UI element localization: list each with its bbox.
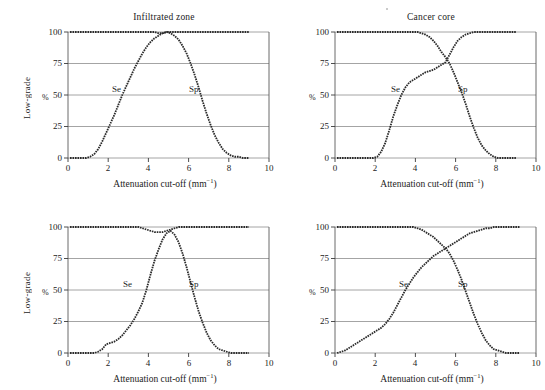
x-tick-4: 4 (140, 359, 156, 368)
x-axis-label-text: Attenuation cut-off (mm (113, 374, 206, 384)
series-label-se: Se (112, 84, 121, 94)
x-tick-4: 4 (407, 359, 423, 368)
x-tick-6: 6 (181, 359, 197, 368)
y-tick-25: 25 (40, 317, 62, 326)
x-tick-2: 2 (367, 164, 383, 173)
x-axis-label: Attenuation cut-off (mm−1) (317, 372, 545, 384)
y-tick-25: 25 (40, 122, 62, 131)
plot-area (68, 32, 269, 158)
x-tick-10: 10 (528, 164, 544, 173)
x-tick-6: 6 (181, 164, 197, 173)
x-tick-6: 6 (448, 164, 464, 173)
y-tick-100: 100 (40, 28, 62, 37)
x-tick-0: 0 (327, 359, 343, 368)
y-ticks (331, 32, 335, 158)
y-tick-0: 0 (40, 154, 62, 163)
panel-bottom-left: Low-grade % (0, 195, 267, 390)
x-axis-label-text: Attenuation cut-off (mm (113, 179, 206, 189)
panel-cancer-core: Cancer core % (267, 0, 534, 195)
x-tick-10: 10 (528, 359, 544, 368)
x-axis-label-tail: ) (213, 179, 216, 189)
plot-area (335, 227, 536, 353)
y-tick-50: 50 (40, 91, 62, 100)
series-label-sp: Sp (458, 84, 468, 94)
y-tick-100: 100 (40, 223, 62, 232)
x-tick-8: 8 (488, 164, 504, 173)
series-label-se: Se (123, 279, 132, 289)
y-tick-25: 25 (307, 317, 329, 326)
y-tick-75: 75 (40, 59, 62, 68)
gridlines (68, 32, 269, 158)
x-axis-label-text: Attenuation cut-off (mm (380, 374, 473, 384)
gridlines (335, 32, 536, 158)
y-tick-75: 75 (307, 254, 329, 263)
series-label-sp: Sp (189, 84, 199, 94)
y-tick-75: 75 (307, 59, 329, 68)
x-tick-6: 6 (448, 359, 464, 368)
plot-svg (68, 32, 269, 158)
curve-se (70, 231, 249, 353)
plot-area (68, 227, 269, 353)
gridlines (335, 227, 536, 353)
curve-sp (70, 227, 249, 232)
plot-svg (335, 32, 536, 158)
y-tick-25: 25 (307, 122, 329, 131)
y-ticks (331, 227, 335, 353)
x-tick-0: 0 (60, 164, 76, 173)
y-tick-0: 0 (40, 349, 62, 358)
x-tick-2: 2 (100, 164, 116, 173)
panel-title: Infiltrated zone (58, 12, 270, 22)
y-tick-100: 100 (307, 223, 329, 232)
x-axis-label-tail: ) (480, 179, 483, 189)
x-tick-8: 8 (221, 359, 237, 368)
y-tick-50: 50 (40, 286, 62, 295)
plot-area (335, 32, 536, 158)
y-tick-75: 75 (40, 254, 62, 263)
panel-title: Cancer core (325, 12, 537, 22)
series-label-se: Se (399, 279, 408, 289)
panel-bottom-right: % (267, 195, 534, 390)
plot-svg (68, 227, 269, 353)
series-label-sp: Sp (458, 279, 468, 289)
gridlines (68, 227, 269, 353)
x-tick-0: 0 (327, 164, 343, 173)
x-tick-8: 8 (221, 164, 237, 173)
x-tick-2: 2 (367, 359, 383, 368)
y-axis-label: Low-grade (22, 250, 32, 335)
y-tick-0: 0 (307, 349, 329, 358)
x-axis-label: Attenuation cut-off (mm−1) (50, 372, 280, 384)
series-label-se: Se (391, 84, 400, 94)
y-tick-50: 50 (307, 286, 329, 295)
x-tick-4: 4 (140, 164, 156, 173)
x-ticks (68, 158, 269, 162)
y-tick-0: 0 (307, 154, 329, 163)
x-tick-8: 8 (488, 359, 504, 368)
y-ticks (64, 32, 68, 158)
x-tick-0: 0 (60, 359, 76, 368)
x-tick-2: 2 (100, 359, 116, 368)
y-tick-50: 50 (307, 91, 329, 100)
y-ticks (64, 227, 68, 353)
plot-svg (335, 227, 536, 353)
x-axis-label: Attenuation cut-off (mm−1) (317, 177, 545, 189)
panel-infiltrated-zone: Infiltrated zone Low-grade % (0, 0, 267, 195)
x-axis-label-tail: ) (213, 374, 216, 384)
series-label-sp: Sp (189, 279, 199, 289)
x-axis-label-text: Attenuation cut-off (mm (380, 179, 473, 189)
x-tick-4: 4 (407, 164, 423, 173)
y-axis-label: Low-grade (22, 55, 32, 140)
x-axis-label-tail: ) (480, 374, 483, 384)
y-tick-100: 100 (307, 28, 329, 37)
x-axis-label: Attenuation cut-off (mm−1) (50, 177, 280, 189)
